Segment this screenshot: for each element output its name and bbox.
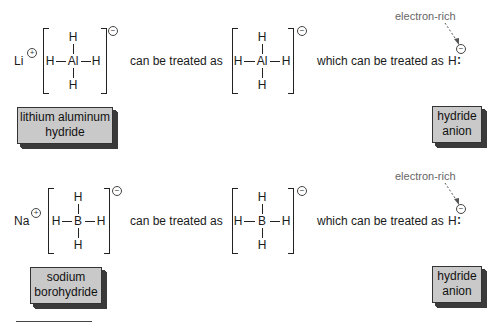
- bond-top: [262, 204, 263, 214]
- bond-top: [73, 44, 74, 54]
- lone-pair-icon: :: [457, 54, 461, 66]
- connector-text-2: which can be treated as: [317, 215, 444, 227]
- row-sodium-borohydride: Na + − H H B H H can be treated as − H H…: [0, 160, 499, 323]
- atom-h-left: H: [49, 215, 63, 227]
- label-line-1: hydride: [433, 269, 481, 284]
- cation-symbol: Li: [14, 55, 23, 67]
- bond-bottom: [73, 68, 74, 78]
- cation-symbol: Na: [14, 215, 29, 227]
- bond-bottom: [78, 228, 79, 238]
- negative-charge-icon: −: [297, 26, 307, 36]
- hydride-atom: H: [448, 215, 457, 227]
- atom-center: Al: [255, 55, 269, 67]
- connector-text-1: can be treated as: [130, 55, 223, 67]
- label-lithium-aluminum-hydride: lithium aluminum hydride: [17, 107, 113, 144]
- atom-h-bottom: H: [66, 79, 80, 91]
- atom-h-right: H: [279, 55, 293, 67]
- atom-h-right: H: [89, 55, 103, 67]
- negative-charge-icon: −: [297, 186, 307, 196]
- label-line-2: anion: [433, 124, 481, 139]
- label-line-1: sodium: [31, 270, 101, 285]
- atom-h-top: H: [255, 31, 269, 43]
- bond-top: [78, 204, 79, 214]
- label-line-2: hydride: [18, 125, 112, 140]
- connector-text-2: which can be treated as: [317, 55, 444, 67]
- dashed-arrow-icon: [440, 180, 464, 208]
- atom-h-left: H: [231, 215, 245, 227]
- negative-charge-icon: −: [108, 26, 118, 36]
- bond-left: [244, 221, 255, 222]
- atom-h-left: H: [231, 55, 245, 67]
- label-line-2: borohydride: [31, 285, 101, 300]
- row-lithium-aluminum-hydride: Li + − H H Al H H can be treated as − H …: [0, 0, 499, 160]
- atom-h-top: H: [71, 191, 85, 203]
- lone-pair-icon: :: [457, 214, 461, 226]
- negative-charge-icon: −: [112, 186, 122, 196]
- footnote-divider: [16, 321, 92, 322]
- bond-left: [244, 61, 255, 62]
- dashed-arrow-icon: [440, 20, 464, 48]
- atom-center: B: [71, 215, 85, 227]
- bond-top: [262, 44, 263, 54]
- label-line-1: lithium aluminum: [18, 110, 112, 125]
- atom-h-top: H: [66, 31, 80, 43]
- label-hydride-anion: hydride anion: [432, 106, 482, 143]
- atom-h-bottom: H: [255, 79, 269, 91]
- atom-center: B: [255, 215, 269, 227]
- atom-h-right: H: [94, 215, 108, 227]
- bond-bottom: [262, 68, 263, 78]
- positive-charge-icon: +: [27, 48, 37, 58]
- hydride-atom: H: [448, 55, 457, 67]
- label-hydride-anion: hydride anion: [432, 266, 482, 303]
- atom-h-bottom: H: [255, 239, 269, 251]
- atom-h-left: H: [43, 55, 57, 67]
- label-line-2: anion: [433, 284, 481, 299]
- positive-charge-icon: +: [31, 208, 41, 218]
- label-sodium-borohydride: sodium borohydride: [30, 267, 102, 304]
- atom-h-bottom: H: [71, 239, 85, 251]
- label-line-1: hydride: [433, 109, 481, 124]
- connector-text-1: can be treated as: [130, 215, 223, 227]
- bond-left: [56, 61, 66, 62]
- bond-bottom: [262, 228, 263, 238]
- atom-center: Al: [66, 55, 80, 67]
- atom-h-right: H: [279, 215, 293, 227]
- atom-h-top: H: [255, 191, 269, 203]
